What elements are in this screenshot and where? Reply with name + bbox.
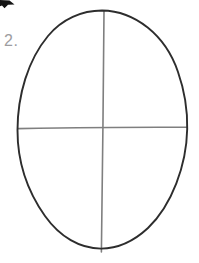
tutorial-step-panel: 2.	[0, 0, 199, 263]
step-number-label: 2.	[4, 32, 18, 49]
sketch-background	[0, 0, 199, 263]
head-construction-sketch: 2.	[0, 0, 199, 263]
